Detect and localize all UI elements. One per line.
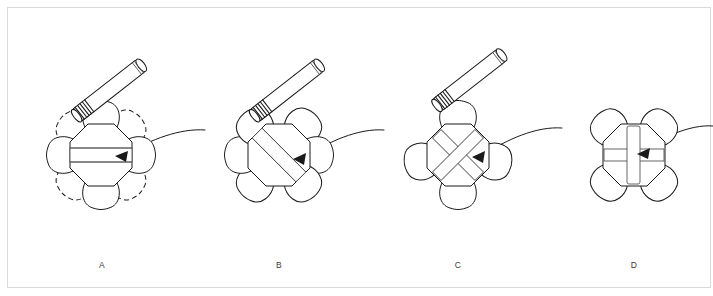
- figure-canvas: A: [0, 0, 713, 296]
- panel-b-label: B: [276, 260, 282, 270]
- panel-d[interactable]: D: [584, 102, 684, 270]
- panel-a-label: A: [99, 260, 105, 270]
- panel-c-label: C: [455, 260, 461, 270]
- panel-b[interactable]: B: [225, 57, 334, 270]
- panel-c[interactable]: C: [401, 47, 515, 270]
- panel-a[interactable]: A: [47, 57, 156, 270]
- panel-d-label: D: [631, 260, 637, 270]
- diagram-svg: A: [0, 0, 713, 296]
